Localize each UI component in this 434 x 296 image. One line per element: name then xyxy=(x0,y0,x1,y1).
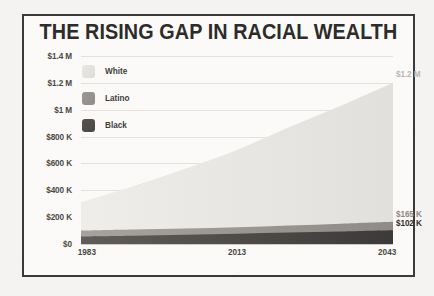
y-axis-tick-label: $800 K xyxy=(46,132,72,141)
legend-swatch-latino-icon xyxy=(82,92,95,105)
legend-label-white: White xyxy=(105,67,127,76)
x-axis-tick-label: 2043 xyxy=(378,248,396,257)
chart-card: THE RISING GAP IN RACIAL WEALTH $1.4 M$1… xyxy=(22,14,415,277)
legend-item-latino: Latino xyxy=(82,91,192,105)
gridline xyxy=(81,244,393,245)
y-axis-tick-label: $1.2 M xyxy=(48,78,72,87)
end-value-white: $1.2 M xyxy=(396,70,420,79)
y-axis: $1.4 M$1.2 M$1 M$800 K$600 K$400 K$200 K… xyxy=(24,56,76,244)
end-value-black: $102 K xyxy=(396,219,422,228)
legend-item-white: White xyxy=(82,64,192,78)
legend-label-latino: Latino xyxy=(105,94,130,103)
x-axis-tick-label: 2013 xyxy=(228,248,246,257)
legend-swatch-white-icon xyxy=(82,65,95,78)
y-axis-tick-label: $1 M xyxy=(54,105,72,114)
y-axis-tick-label: $0 xyxy=(63,240,72,249)
x-axis-tick-label: 1983 xyxy=(78,248,96,257)
x-axis: 198320132043 xyxy=(81,248,393,262)
chart-legend: White Latino Black xyxy=(82,64,192,145)
legend-swatch-black-icon xyxy=(82,119,95,132)
legend-label-black: Black xyxy=(105,121,127,130)
y-axis-tick-label: $400 K xyxy=(46,186,72,195)
y-axis-tick-label: $1.4 M xyxy=(48,52,72,61)
plot-wrapper: $1.4 M$1.2 M$1 M$800 K$600 K$400 K$200 K… xyxy=(24,16,413,275)
legend-item-black: Black xyxy=(82,118,192,132)
y-axis-tick-label: $600 K xyxy=(46,159,72,168)
end-value-latino: $165 K xyxy=(396,210,422,219)
y-axis-tick-label: $200 K xyxy=(46,213,72,222)
